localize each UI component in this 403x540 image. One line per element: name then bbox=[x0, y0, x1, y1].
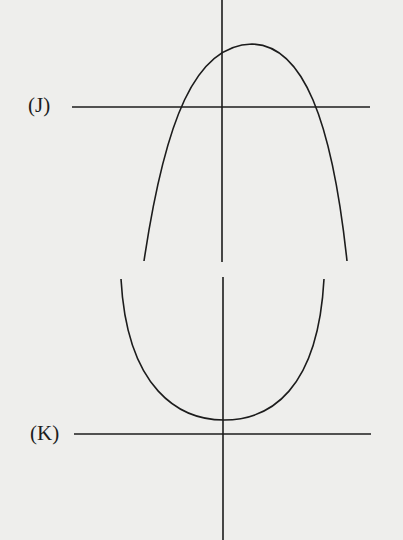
graph-k-label: (K) bbox=[30, 423, 59, 444]
graph-j bbox=[72, 0, 370, 262]
graph-k bbox=[74, 277, 371, 540]
graph-j-label: (J) bbox=[28, 95, 50, 116]
graphs-canvas bbox=[0, 0, 403, 540]
graph-figure: (J) (K) bbox=[0, 0, 403, 540]
graph-j-curve bbox=[144, 44, 347, 261]
